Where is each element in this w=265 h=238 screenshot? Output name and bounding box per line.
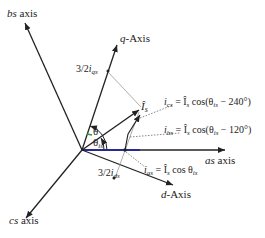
qs-projection-point — [107, 70, 110, 73]
ics-equation: ics = Îs cos(θis − 240°) — [164, 96, 251, 109]
d-axis-label: d-Axis — [161, 188, 191, 200]
as-axis-label: as axis — [205, 154, 235, 166]
cs-axis-label: cs axis — [9, 214, 39, 226]
bs-axis-label: bs axis — [7, 7, 37, 19]
is-vector-label: Îs — [140, 100, 148, 114]
bs-axis-line — [25, 23, 82, 150]
as-projection-point — [123, 148, 127, 152]
ids-label: 3/2ids — [98, 167, 120, 180]
q-axis-label: q-Axis — [120, 32, 150, 44]
q-projection-guide — [108, 72, 141, 107]
ias-equation: ias = Îs cos θis — [144, 164, 198, 177]
cs-axis-line — [26, 150, 82, 218]
iqs-label: 3/2iqs — [76, 63, 98, 76]
ias-leader — [126, 152, 145, 167]
space-vector-diagram: bs axis cs axis q-Axis d-Axis as axis Îs… — [0, 0, 265, 238]
theta-marker — [87, 134, 92, 135]
theta-is-label: θis — [93, 136, 103, 150]
ics-component — [128, 115, 140, 134]
ias-component — [125, 134, 128, 150]
ibs-equation: ibs = Îs cos(θis − 120°) — [164, 124, 251, 137]
